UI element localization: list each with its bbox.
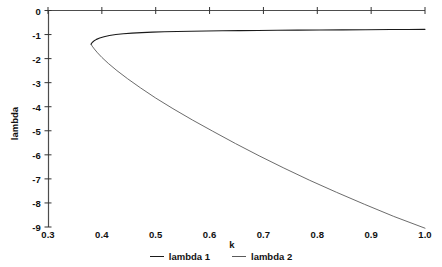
series-line-lambda-2 xyxy=(91,44,425,228)
y-tick-label-7: -7 xyxy=(8,173,41,184)
series-line-lambda-1 xyxy=(91,29,425,44)
y-axis-label: lambda xyxy=(9,94,20,154)
x-tick-label-2: 0.5 xyxy=(149,229,163,240)
legend-swatch-lambda-2 xyxy=(232,256,246,257)
x-tick-label-7: 1.0 xyxy=(418,229,432,240)
x-tick-label-0: 0.3 xyxy=(41,229,55,240)
y-tick-label-1: -1 xyxy=(8,29,41,40)
x-tick-label-1: 0.4 xyxy=(95,229,109,240)
y-tick-label-9: -9 xyxy=(8,222,41,233)
legend-item-lambda-1[interactable]: lambda 1 xyxy=(150,251,210,262)
y-tick-label-3: -3 xyxy=(8,77,41,88)
y-tick-label-8: -8 xyxy=(8,197,41,208)
axis-lines xyxy=(48,10,425,227)
chart-legend: lambda 1 lambda 2 xyxy=(0,251,442,262)
legend-label-lambda-2: lambda 2 xyxy=(251,251,292,262)
x-tick-label-5: 0.8 xyxy=(311,229,325,240)
y-tick-label-0: 0 xyxy=(8,5,41,16)
chart-figure: 0-1-2-3-4-5-6-7-8-9 0.30.40.50.60.70.80.… xyxy=(0,0,442,267)
x-tick-label-3: 0.6 xyxy=(203,229,217,240)
x-axis-label: k xyxy=(229,239,234,250)
legend-item-lambda-2[interactable]: lambda 2 xyxy=(232,251,292,262)
x-tick-label-6: 0.9 xyxy=(364,229,378,240)
legend-label-lambda-1: lambda 1 xyxy=(169,251,210,262)
legend-swatch-lambda-1 xyxy=(150,256,164,257)
plot-canvas xyxy=(0,0,442,267)
y-tick-label-2: -2 xyxy=(8,53,41,64)
x-tick-label-4: 0.7 xyxy=(257,229,271,240)
